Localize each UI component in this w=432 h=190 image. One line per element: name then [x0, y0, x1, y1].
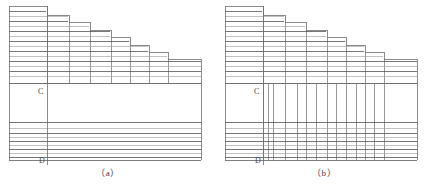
panel-a-drawing: [0, 0, 216, 190]
vertical-grid-lines-b: [263, 83, 384, 160]
panel-caption-b: （b）: [216, 166, 432, 179]
figure-pair: C D （a） C D （b）: [0, 0, 432, 190]
lower-strata-lines-b: [225, 122, 417, 160]
staircase-outline-a: [9, 6, 201, 83]
figure-panel-b: C D （b）: [216, 0, 432, 190]
panel-caption-a: （a）: [0, 166, 216, 179]
node-label-c-b: C: [254, 88, 259, 96]
upper-strata-lines-a: [9, 11, 201, 83]
staircase-outline-b: [225, 6, 417, 83]
figure-panel-a: C D （a）: [0, 0, 216, 190]
panel-b-drawing: [216, 0, 432, 190]
lower-strata-lines-a: [9, 122, 201, 160]
upper-strata-lines-b: [225, 11, 417, 83]
node-label-d-a: D: [39, 157, 45, 165]
node-label-c-a: C: [38, 88, 43, 96]
node-label-d-b: D: [255, 157, 261, 165]
